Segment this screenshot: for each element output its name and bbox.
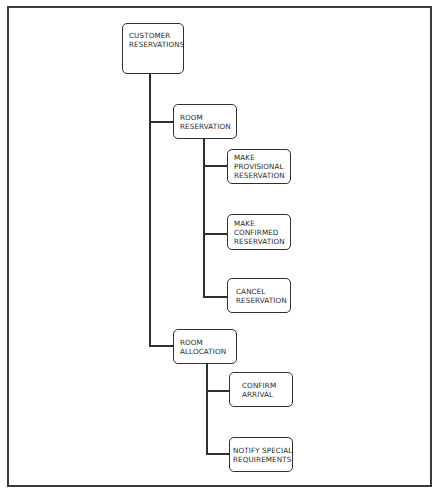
node-label-line: RESERVATION xyxy=(234,171,290,180)
node-make-provisional-reservation: MAKE PROVISIONAL RESERVATION xyxy=(227,149,291,184)
connector-room-reservation xyxy=(149,121,173,123)
node-make-confirmed-reservation: MAKE CONFIRMED RESERVATION xyxy=(227,214,291,250)
connector-make-confirmed xyxy=(203,233,227,235)
node-label-line: MAKE xyxy=(234,153,290,162)
node-label-line: ROOM xyxy=(180,113,236,122)
node-label-line: CUSTOMER xyxy=(129,31,183,40)
node-label-line: NOTIFY SPECIAL xyxy=(233,446,292,455)
node-cancel-reservation: CANCEL RESERVATION xyxy=(227,278,291,313)
node-confirm-arrival: CONFIRM ARRIVAL xyxy=(229,372,293,407)
node-label-line: RESERVATION xyxy=(236,296,290,305)
node-label-line: RESERVATIONS xyxy=(129,40,183,49)
diagram-frame xyxy=(7,6,432,487)
node-room-allocation: ROOM ALLOCATION xyxy=(173,329,237,364)
node-label-line: CANCEL xyxy=(236,287,290,296)
node-label-line: CONFIRMED xyxy=(234,228,290,237)
node-label-line: ALLOCATION xyxy=(180,347,236,356)
connector-cancel-reservation xyxy=(203,296,227,298)
room-reservation-trunk-line xyxy=(203,138,205,297)
node-label-line: REQUIREMENTS xyxy=(233,455,292,464)
node-room-reservation: ROOM RESERVATION xyxy=(173,104,237,139)
node-label-line: ARRIVAL xyxy=(242,390,292,399)
node-label-line: CONFIRM xyxy=(242,381,292,390)
node-label-line: ROOM xyxy=(180,338,236,347)
node-label-line: MAKE xyxy=(234,219,290,228)
connector-make-provisional xyxy=(203,165,227,167)
connector-notify-special xyxy=(206,453,229,455)
node-notify-special-requirements: NOTIFY SPECIAL REQUIREMENTS xyxy=(229,437,293,472)
connector-room-allocation xyxy=(149,345,173,347)
node-customer-reservations: CUSTOMER RESERVATIONS xyxy=(122,23,184,74)
root-trunk-line xyxy=(149,73,151,346)
connector-confirm-arrival xyxy=(206,390,229,392)
node-label-line: RESERVATION xyxy=(180,122,236,131)
room-allocation-trunk-line xyxy=(206,363,208,454)
node-label-line: PROVISIONAL xyxy=(234,162,290,171)
node-label-line: RESERVATION xyxy=(234,237,290,246)
